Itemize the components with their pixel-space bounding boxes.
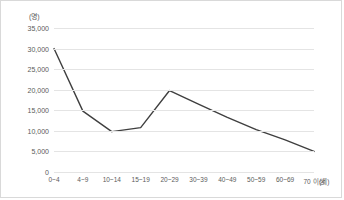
gridline: [54, 172, 314, 173]
gridline: [54, 90, 314, 91]
y-axis-tick-label: 35,000: [28, 25, 49, 32]
x-axis-tick-label: 30~39: [189, 176, 207, 183]
gridline: [54, 49, 314, 50]
gridline: [54, 131, 314, 132]
data-series-line: [54, 28, 314, 172]
x-axis-tick-label: 4~9: [77, 176, 88, 183]
x-axis-tick-label: 20~29: [160, 176, 178, 183]
x-axis-tick-labels: 0~44~910~1415~1920~2930~3940~4950~5960~6…: [54, 176, 314, 190]
x-axis-tick-label: 15~19: [132, 176, 150, 183]
x-axis-tick-label: 10~14: [103, 176, 121, 183]
y-axis-tick-label: 15,000: [28, 107, 49, 114]
gridline: [54, 110, 314, 111]
y-axis-tick-label: 10,000: [28, 127, 49, 134]
y-axis-tick-label: 25,000: [28, 66, 49, 73]
y-axis-tick-label: 0: [45, 169, 49, 176]
y-axis-unit-label: (명): [29, 11, 40, 21]
plot-area: [54, 28, 314, 172]
x-axis-tick-label: 50~59: [247, 176, 265, 183]
x-axis-tick-label: 0~4: [48, 176, 59, 183]
x-axis-unit-label: (세): [319, 176, 329, 186]
y-axis-tick-labels: 05,00010,00015,00020,00025,00030,00035,0…: [1, 28, 49, 172]
y-axis-tick-label: 5,000: [31, 148, 49, 155]
x-axis-tick-label: 40~49: [218, 176, 236, 183]
gridline: [54, 69, 314, 70]
gridline: [54, 28, 314, 29]
gridline: [54, 151, 314, 152]
y-axis-tick-label: 30,000: [28, 45, 49, 52]
y-axis-tick-label: 20,000: [28, 86, 49, 93]
x-axis-tick-label: 60~69: [276, 176, 294, 183]
line-chart: (명) 05,00010,00015,00020,00025,00030,000…: [0, 0, 342, 198]
